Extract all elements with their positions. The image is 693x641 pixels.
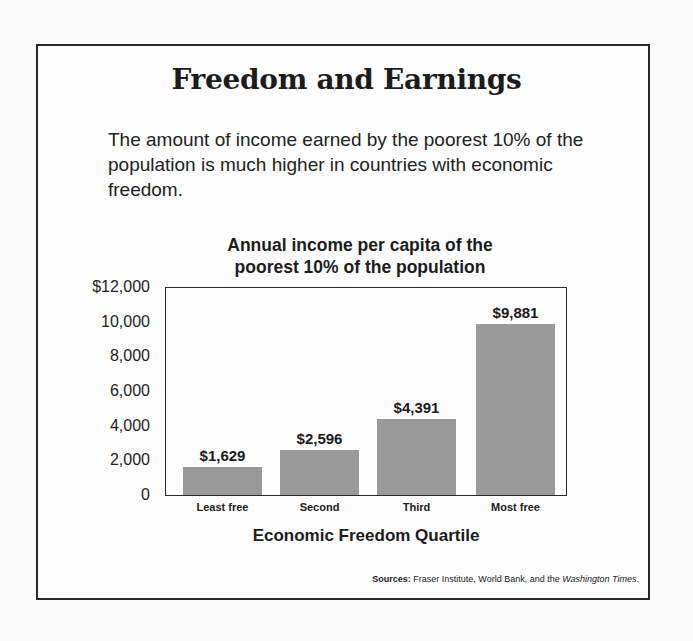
- sources-end: .: [636, 574, 639, 584]
- bar-third: [377, 419, 456, 495]
- bar-least-free: [183, 467, 262, 495]
- y-tick-label: 8,000: [30, 347, 150, 365]
- y-tick-label: $12,000: [30, 278, 150, 296]
- y-tick-label: 6,000: [30, 382, 150, 400]
- bar-value-label: $9,881: [456, 304, 576, 321]
- bar-value-label: $1,629: [163, 447, 283, 464]
- bar-value-label: $2,596: [260, 430, 380, 447]
- sources-text: Fraser Institute, World Bank, and the: [411, 574, 562, 584]
- y-tick-label: 10,000: [30, 313, 150, 331]
- x-tick-label: Most free: [456, 501, 576, 513]
- page-title: Freedom and Earnings: [0, 63, 693, 96]
- bar-value-label: $4,391: [357, 399, 477, 416]
- chart-title-line-1: Annual income per capita of the: [160, 234, 560, 256]
- y-tick-label: 4,000: [30, 417, 150, 435]
- chart-title-line-2: poorest 10% of the population: [160, 256, 560, 278]
- y-tick-label: 0: [30, 486, 150, 504]
- bar-most-free: [476, 324, 555, 495]
- subtitle: The amount of income earned by the poore…: [108, 127, 608, 202]
- sources-italic: Washington Times: [562, 574, 636, 584]
- sources-label: Sources:: [372, 574, 411, 584]
- bar-second: [280, 450, 359, 495]
- x-axis-label: Economic Freedom Quartile: [165, 526, 567, 546]
- sources-note: Sources: Fraser Institute, World Bank, a…: [372, 574, 639, 584]
- chart-title: Annual income per capita of the poorest …: [160, 234, 560, 278]
- y-tick-label: 2,000: [30, 451, 150, 469]
